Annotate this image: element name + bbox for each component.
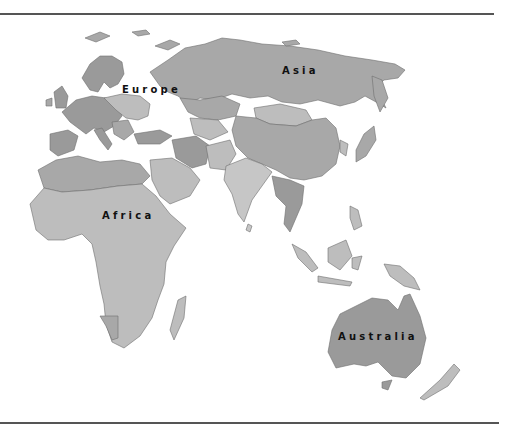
region-madagascar <box>170 296 186 340</box>
region-novaya-zemlya <box>155 40 180 50</box>
label-australia: Australia <box>338 331 418 342</box>
region-italy <box>94 128 112 150</box>
region-new-guinea <box>384 264 420 290</box>
region-ireland <box>46 98 52 106</box>
region-borneo <box>328 240 352 270</box>
region-sumatra <box>292 244 318 272</box>
region-arctic-island <box>282 40 300 46</box>
region-korea <box>340 140 348 156</box>
region-tasmania <box>382 380 392 390</box>
region-southeast-asia <box>272 176 304 232</box>
world-map <box>0 0 521 435</box>
label-africa: Africa <box>102 210 154 221</box>
region-philippines <box>350 206 362 230</box>
region-kazakhstan <box>180 96 240 120</box>
region-arctic-island <box>85 32 110 42</box>
region-india <box>224 158 272 222</box>
region-balkans <box>112 120 134 140</box>
label-europe: Europe <box>122 84 181 95</box>
region-uk <box>54 86 68 108</box>
region-scandinavia <box>82 56 124 92</box>
region-new-zealand <box>420 364 460 400</box>
region-namibia <box>100 316 118 340</box>
region-japan <box>356 126 376 162</box>
region-sri-lanka <box>246 224 252 232</box>
region-iberia <box>50 130 78 156</box>
region-russia <box>150 38 405 108</box>
region-arctic-island <box>132 30 150 36</box>
region-java <box>318 276 352 286</box>
region-turkey <box>134 130 172 144</box>
label-asia: Asia <box>282 65 319 76</box>
region-sulawesi <box>352 256 362 270</box>
